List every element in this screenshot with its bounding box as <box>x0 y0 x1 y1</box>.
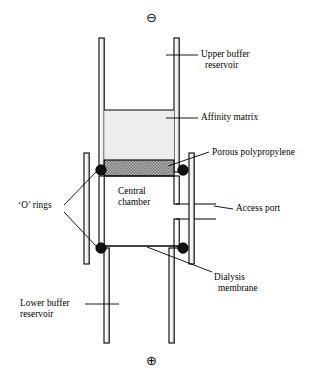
o-ring-upper-right <box>178 165 188 175</box>
label-central-chamber-line1: Central <box>118 186 146 196</box>
porous-polypropylene-frit <box>104 160 174 176</box>
lower-tube-right-wall <box>169 248 174 343</box>
apparatus-diagram: ⊖ ⊕ Upper bufferreservoir Affinity matri… <box>0 0 330 384</box>
affinity-matrix-fill <box>104 110 174 160</box>
label-lower-buffer-reservoir: Lower bufferreservoir <box>20 298 70 321</box>
label-lower-buffer-reservoir-line1: Lower buffer <box>20 298 70 308</box>
label-central-chamber: Centralchamber <box>118 186 150 209</box>
leader-access-port <box>214 206 233 209</box>
label-dialysis-membrane: Dialysismembrane <box>214 272 258 295</box>
positive-electrode-symbol: ⊕ <box>146 354 157 367</box>
access-port-spout <box>176 204 216 219</box>
label-dialysis-membrane-line1: Dialysis <box>214 272 245 282</box>
central-chamber-left-wall <box>99 176 104 248</box>
leader-o-ring-lower <box>64 212 97 247</box>
label-porous-polypropylene: Porous polypropylene <box>212 147 295 158</box>
negative-electrode-symbol: ⊖ <box>146 11 157 24</box>
label-upper-buffer-reservoir-line1: Upper buffer <box>201 49 250 59</box>
outer-sleeve-right <box>189 153 194 264</box>
o-ring-lower-right <box>178 243 188 253</box>
central-chamber-right-wall-lower <box>174 219 179 248</box>
apparatus-drawing <box>0 0 330 384</box>
leader-line-group <box>64 55 233 304</box>
central-chamber-right-wall-upper <box>174 176 179 204</box>
label-access-port: Access port <box>236 203 280 214</box>
outer-sleeve-left <box>84 153 89 264</box>
label-affinity-matrix: Affinity matrix <box>201 112 258 123</box>
label-dialysis-membrane-line2: membrane <box>214 283 258 293</box>
o-ring-lower-left <box>96 243 106 253</box>
label-upper-buffer-reservoir: Upper bufferreservoir <box>201 49 250 72</box>
label-lower-buffer-reservoir-line2: reservoir <box>20 309 54 319</box>
o-ring-upper-left <box>96 165 106 175</box>
porous-polypropylene-region <box>104 160 174 176</box>
lower-buffer-reservoir-tube <box>104 248 174 343</box>
label-central-chamber-line2: chamber <box>118 197 150 207</box>
upper-tube-right-wall <box>174 38 179 172</box>
upper-tube-left-wall <box>99 38 104 172</box>
label-o-rings: ‘O’ rings <box>18 200 52 211</box>
leader-o-ring-upper <box>64 171 97 205</box>
label-upper-buffer-reservoir-line2: reservoir <box>201 60 239 70</box>
affinity-matrix-region <box>104 110 174 160</box>
lower-tube-left-wall <box>104 248 109 343</box>
